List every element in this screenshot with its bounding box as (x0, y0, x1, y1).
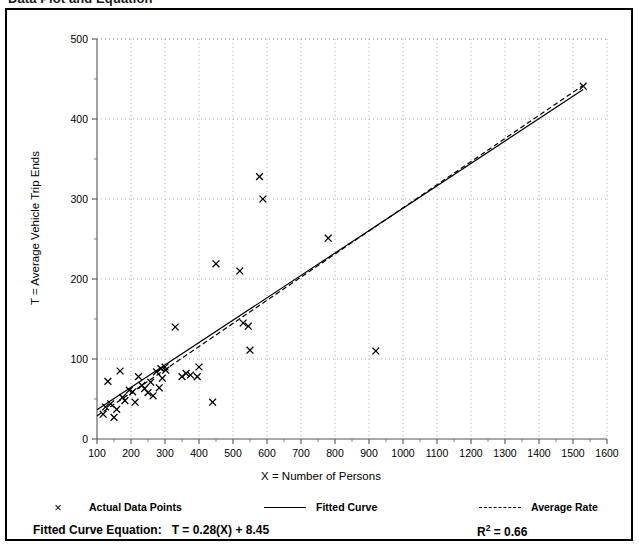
svg-text:1300: 1300 (493, 447, 517, 459)
legend-label-average-rate: Average Rate (531, 501, 598, 513)
data-point-marker (247, 347, 254, 354)
equation-value: T = 0.28(X) + 8.45 (172, 523, 269, 537)
r-squared: R2 = 0.66 (477, 523, 527, 539)
svg-text:300: 300 (70, 193, 88, 205)
legend-item-average-rate: Average Rate (477, 496, 598, 518)
svg-text:300: 300 (156, 447, 174, 459)
svg-text:900: 900 (360, 447, 378, 459)
data-point-marker (372, 348, 379, 355)
svg-text:100: 100 (88, 447, 106, 459)
svg-text:200: 200 (70, 273, 88, 285)
data-point-marker (156, 384, 163, 391)
svg-text:100: 100 (70, 353, 88, 365)
data-point-marker (104, 378, 111, 385)
svg-text:200: 200 (122, 447, 140, 459)
svg-text:700: 700 (292, 447, 310, 459)
equation-row: Fitted Curve Equation: T = 0.28(X) + 8.4… (7, 522, 635, 543)
svg-text:800: 800 (326, 447, 344, 459)
svg-text:400: 400 (70, 113, 88, 125)
svg-text:500: 500 (70, 33, 88, 45)
svg-text:0: 0 (82, 433, 88, 445)
data-point-marker (256, 173, 263, 180)
svg-text:1000: 1000 (391, 447, 415, 459)
svg-text:1400: 1400 (527, 447, 551, 459)
chart-page: Data Plot and Equation 10020030040050060… (0, 0, 639, 549)
data-point-marker (121, 397, 128, 404)
svg-text:1500: 1500 (561, 447, 585, 459)
data-point-marker (196, 364, 203, 371)
scatter-plot-svg: 1002003004005006007008009001000110012001… (7, 10, 635, 488)
data-point-marker (194, 373, 201, 380)
y-axis-title: T = Average Vehicle Trip Ends (29, 128, 41, 328)
plot-area: 1002003004005006007008009001000110012001… (7, 10, 635, 488)
data-point-marker (117, 368, 124, 375)
x-marker-icon: × (35, 500, 81, 514)
r-squared-label: R (477, 525, 486, 539)
dashed-line-icon (477, 500, 523, 514)
data-point-marker (236, 268, 243, 275)
data-point-marker (132, 399, 139, 406)
x-axis-title: X = Number of Persons (7, 470, 635, 482)
svg-text:500: 500 (224, 447, 242, 459)
data-point-marker (135, 373, 142, 380)
fitted-curve-equation: Fitted Curve Equation: T = 0.28(X) + 8.4… (33, 523, 269, 537)
page-title: Data Plot and Equation (8, 0, 152, 6)
svg-text:1600: 1600 (595, 447, 619, 459)
data-point-marker (325, 235, 332, 242)
data-point-marker (100, 411, 107, 418)
chart-legend: × Actual Data Points Fitted Curve Averag… (7, 496, 635, 518)
data-point-marker (113, 406, 120, 413)
data-point-marker (213, 260, 220, 267)
legend-label-actual-data-points: Actual Data Points (89, 501, 182, 513)
solid-line-icon (262, 500, 308, 514)
svg-text:600: 600 (258, 447, 276, 459)
data-point-marker (111, 414, 118, 421)
axes (92, 39, 607, 444)
chart-card: 1002003004005006007008009001000110012001… (5, 8, 633, 541)
legend-label-fitted-curve: Fitted Curve (316, 501, 377, 513)
gridlines (97, 39, 607, 439)
svg-text:1200: 1200 (459, 447, 483, 459)
equation-label: Fitted Curve Equation: (33, 523, 162, 537)
data-point-marker (209, 399, 216, 406)
r-squared-value: = 0.66 (494, 525, 528, 539)
legend-item-actual-data-points: × Actual Data Points (35, 496, 182, 518)
svg-text:400: 400 (190, 447, 208, 459)
data-point-marker (159, 375, 166, 382)
data-points (100, 83, 587, 421)
trend-lines (97, 85, 583, 416)
r-squared-exponent: 2 (486, 523, 491, 533)
data-point-marker (172, 324, 179, 331)
svg-text:1100: 1100 (426, 447, 449, 459)
legend-item-fitted-curve: Fitted Curve (262, 496, 377, 518)
